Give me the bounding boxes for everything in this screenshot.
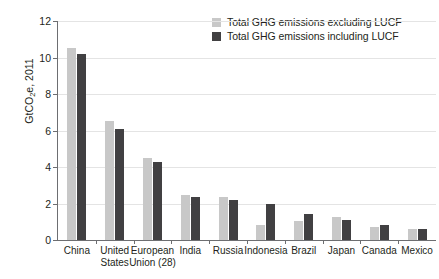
bar-group (67, 20, 86, 240)
x-axis-tick-label: Mexico (389, 245, 439, 257)
y-axis-tick-label: 8 (45, 89, 51, 99)
x-axis-tick-mark (134, 240, 135, 244)
y-axis-tick-label: 10 (39, 53, 51, 63)
grouped-bar-chart: Total GHG emissions excluding LUCF Total… (0, 0, 439, 279)
bar (370, 227, 379, 240)
bar (191, 197, 200, 240)
bar (380, 225, 389, 240)
bar (143, 158, 152, 240)
bar (77, 54, 86, 240)
x-axis-tick-mark (96, 240, 97, 244)
bar (181, 195, 190, 240)
x-axis-tick-mark (247, 240, 248, 244)
bar (418, 229, 427, 240)
y-axis-title: GtCO2e, 2011 (23, 11, 35, 171)
y-axis-title-subscript: 2 (28, 93, 37, 97)
bar-group (181, 20, 200, 240)
bar-group (294, 20, 313, 240)
y-axis-tick-label: 12 (39, 16, 51, 26)
bar (332, 217, 341, 240)
x-axis-tick-mark (360, 240, 361, 244)
bar (266, 204, 275, 241)
bar (115, 129, 124, 240)
y-axis-tick-mark (53, 204, 58, 205)
x-axis-tick-mark (209, 240, 210, 244)
y-axis-tick-label: 4 (45, 162, 51, 172)
x-axis-tick-mark (398, 240, 399, 244)
y-axis-tick-mark (53, 21, 58, 22)
x-axis-tick-mark (285, 240, 286, 244)
bar (256, 225, 265, 240)
y-axis-tick-label: 2 (45, 199, 51, 209)
bar-group (143, 20, 162, 240)
bar-group (256, 20, 275, 240)
y-axis-tick-label: 6 (45, 126, 51, 136)
bar-group (408, 20, 427, 240)
x-axis-tick-mark (171, 240, 172, 244)
bar (229, 200, 238, 240)
bar (153, 162, 162, 240)
bar-group (105, 20, 124, 240)
y-axis-tick-mark (53, 131, 58, 132)
bar (219, 197, 228, 240)
x-axis-tick-mark (323, 240, 324, 244)
bar (342, 220, 351, 240)
plot-area: 024681012 (58, 21, 436, 240)
bar-group (332, 20, 351, 240)
bar (67, 48, 76, 240)
y-axis-title-post: e, 2011 (23, 58, 35, 92)
y-axis-tick-mark (53, 94, 58, 95)
y-axis-title-pre: GtCO (23, 97, 35, 124)
y-axis-tick-mark (53, 58, 58, 59)
bar (105, 121, 114, 240)
bar (294, 221, 303, 240)
bar (408, 229, 417, 240)
y-axis-tick-mark (53, 240, 58, 241)
bar-group (370, 20, 389, 240)
bar-group (219, 20, 238, 240)
bar (304, 214, 313, 240)
y-axis-tick-label: 0 (45, 235, 51, 245)
y-axis-tick-mark (53, 167, 58, 168)
